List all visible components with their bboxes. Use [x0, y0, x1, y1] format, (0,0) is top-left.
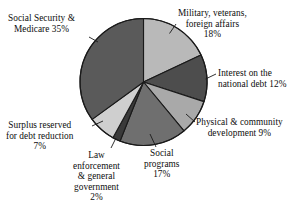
leader-line-law-enforcement — [111, 138, 116, 148]
pie-label-social-programs: Social programs 17% — [144, 148, 180, 180]
pie-label-social-programs-line1: Social — [144, 148, 180, 159]
pie-label-social-security: Social Security & Medicare 35% — [8, 13, 75, 34]
pie-label-physical-line1: Physical & community — [196, 117, 283, 128]
pie-label-military-line2: foreign affairs — [178, 19, 247, 30]
pie-chart-figure: Military, veterans, foreign affairs 18% … — [0, 0, 307, 213]
pie-label-physical-line2: development 9% — [196, 128, 283, 139]
pie-label-law-enforcement-line1: Law — [73, 150, 120, 161]
pie-label-law-enforcement-line3: & general — [73, 171, 120, 182]
pie-label-military-line3: 18% — [178, 29, 247, 40]
pie-label-law-enforcement-line5: 2% — [73, 192, 120, 203]
pie-label-surplus: Surplus reserved for debt reduction 7% — [6, 120, 74, 152]
pie-label-social-security-line2: Medicare 35% — [8, 24, 75, 35]
pie-label-law-enforcement: Law enforcement & general government 2% — [73, 150, 120, 203]
pie-label-social-programs-line3: 17% — [144, 169, 180, 180]
pie-label-social-programs-line2: programs — [144, 159, 180, 170]
pie-label-social-security-line1: Social Security & — [8, 13, 75, 24]
pie-label-interest-line2: national debt 12% — [218, 79, 287, 90]
pie-label-law-enforcement-line2: enforcement — [73, 161, 120, 172]
pie-label-interest-line1: Interest on the — [218, 68, 287, 79]
pie-label-military: Military, veterans, foreign affairs 18% — [178, 8, 247, 40]
pie-label-surplus-line2: for debt reduction — [6, 131, 74, 142]
pie-label-interest: Interest on the national debt 12% — [218, 68, 287, 89]
pie-label-surplus-line3: 7% — [6, 141, 74, 152]
pie-label-military-line1: Military, veterans, — [178, 8, 247, 19]
pie-label-physical: Physical & community development 9% — [196, 117, 283, 138]
pie-label-surplus-line1: Surplus reserved — [6, 120, 74, 131]
pie-label-law-enforcement-line4: government — [73, 182, 120, 193]
